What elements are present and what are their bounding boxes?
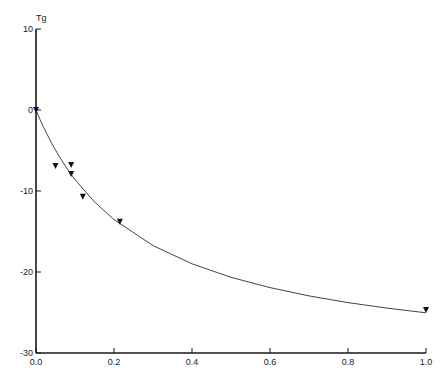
y-axis-ticks: 100-10-20-30: [20, 24, 41, 358]
data-point-marker: [53, 163, 59, 169]
x-tick-label: 0.6: [264, 357, 277, 367]
x-axis-ticks: 0.00.20.40.60.81.0: [30, 348, 433, 367]
y-tick-label: 0: [28, 105, 33, 115]
y-tick-label: -10: [20, 186, 33, 196]
data-point-marker: [68, 162, 74, 168]
data-markers: [33, 107, 429, 313]
axes: [36, 29, 426, 353]
y-tick-label: -30: [20, 348, 33, 358]
chart: 0.00.20.40.60.81.0 100-10-20-30 Tg: [0, 0, 445, 382]
y-tick-label: -20: [20, 267, 33, 277]
fitted-curve: [36, 110, 426, 313]
y-axis-title: Tg: [36, 13, 47, 23]
y-tick-label: 10: [23, 24, 33, 34]
x-tick-label: 0.2: [108, 357, 121, 367]
x-tick-label: 1.0: [420, 357, 433, 367]
x-tick-label: 0.8: [342, 357, 355, 367]
x-tick-label: 0.4: [186, 357, 199, 367]
data-point-marker: [80, 194, 86, 200]
data-point-marker: [68, 171, 74, 177]
x-tick-label: 0.0: [30, 357, 43, 367]
